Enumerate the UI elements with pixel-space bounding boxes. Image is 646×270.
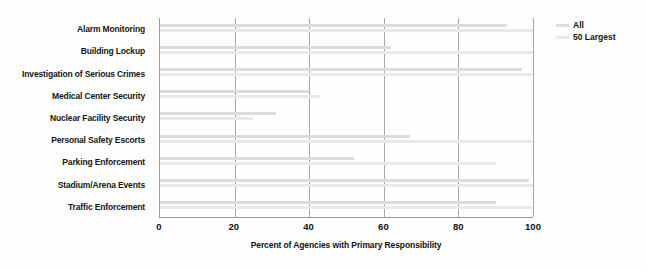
bar-all: [160, 201, 496, 204]
bar-row: [160, 84, 533, 106]
bar-fifty-largest: [160, 184, 533, 187]
bar-row: [160, 129, 533, 151]
bar-all: [160, 24, 507, 27]
x-tick-label: 100: [525, 221, 541, 232]
bar-row: [160, 151, 533, 173]
bar-fifty-largest: [160, 140, 533, 143]
bar-row: [160, 40, 533, 62]
legend-label: All: [573, 20, 584, 30]
legend-swatch-icon: [556, 24, 569, 27]
plot-area: [159, 18, 533, 218]
category-label: Building Lockup: [0, 40, 152, 62]
bar-all: [160, 90, 309, 93]
legend: All50 Largest: [556, 19, 642, 43]
bar-fifty-largest: [160, 95, 320, 98]
category-label: Parking Enforcement: [0, 151, 152, 173]
category-label: Traffic Enforcement: [0, 196, 152, 218]
bar-rows: [160, 18, 533, 217]
bar-fifty-largest: [160, 51, 533, 54]
bar-fifty-largest: [160, 29, 533, 32]
bar-fifty-largest: [160, 206, 533, 209]
x-tick-label: 40: [303, 221, 314, 232]
x-axis-tick-labels: 020406080100: [159, 221, 533, 237]
x-tick-label: 60: [378, 221, 389, 232]
bar-row: [160, 195, 533, 217]
chart-container: Alarm MonitoringBuilding LockupInvestiga…: [0, 0, 646, 270]
bar-row: [160, 173, 533, 195]
category-label: Investigation of Serious Crimes: [0, 62, 152, 84]
bar-fifty-largest: [160, 117, 253, 120]
x-tick-label: 0: [156, 221, 161, 232]
x-axis-title: Percent of Agencies with Primary Respons…: [159, 240, 533, 250]
bar-row: [160, 106, 533, 128]
bar-row: [160, 62, 533, 84]
category-label: Medical Center Security: [0, 85, 152, 107]
bar-all: [160, 112, 276, 115]
gridline: [533, 18, 534, 217]
category-label: Nuclear Facility Security: [0, 107, 152, 129]
legend-swatch-icon: [556, 36, 569, 39]
y-axis-category-labels: Alarm MonitoringBuilding LockupInvestiga…: [0, 18, 152, 218]
legend-item: 50 Largest: [556, 31, 642, 43]
bar-all: [160, 157, 354, 160]
bar-fifty-largest: [160, 73, 533, 76]
category-label: Personal Safety Escorts: [0, 129, 152, 151]
bar-all: [160, 135, 410, 138]
bar-all: [160, 46, 391, 49]
bar-all: [160, 179, 529, 182]
category-label: Alarm Monitoring: [0, 18, 152, 40]
category-label: Stadium/Arena Events: [0, 174, 152, 196]
legend-item: All: [556, 19, 642, 31]
bar-row: [160, 18, 533, 40]
bar-all: [160, 68, 522, 71]
x-tick-label: 20: [229, 221, 240, 232]
bar-fifty-largest: [160, 162, 496, 165]
x-tick-label: 80: [453, 221, 464, 232]
legend-label: 50 Largest: [573, 32, 616, 42]
